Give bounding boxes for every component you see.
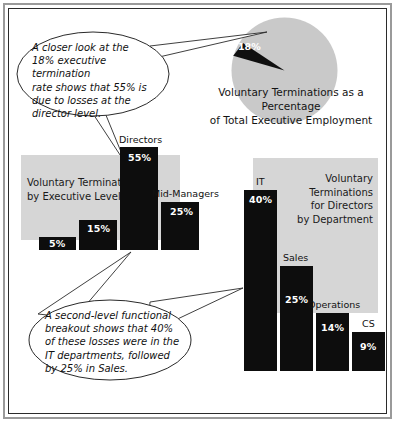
figure-canvas: 18% Voluntary Terminations as a Percenta… [0, 0, 397, 424]
infographic-figure: 18% Voluntary Terminations as a Percenta… [0, 0, 397, 424]
callout-functional-breakout-text: A second-level functional breakout shows… [45, 309, 187, 375]
